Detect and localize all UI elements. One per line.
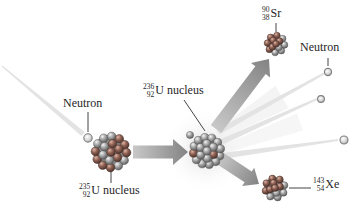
u235-label-text: U nucleus [91,184,139,197]
xe143-label: 143 54 Xe [313,177,339,193]
u236-label: 236 92 U nucleus [143,83,204,99]
diagram-graphics [0,0,357,209]
u235-isotope-numbers: 235 92 [79,183,90,199]
fission-diagram: Neutron Neutron 235 92 U nucleus 236 92 … [0,0,357,209]
neutron-label-left: Neutron [63,97,102,110]
u236-isotope-numbers: 236 92 [143,83,154,99]
u235-nucleus [91,132,131,172]
xe143-nucleus [262,175,288,201]
xe143-label-text: Xe [325,178,339,191]
sr90-isotope-numbers: 90 38 [262,6,270,22]
u236-label-text: U nucleus [155,84,203,97]
sr90-label: 90 38 Sr [262,6,281,22]
neutron-label-right-text: Neutron [300,41,339,54]
sr90-atomic-number: 38 [262,14,270,22]
neutron-label-left-text: Neutron [63,97,102,110]
xe143-isotope-numbers: 143 54 [313,177,324,193]
u235-label: 235 92 U nucleus [79,183,140,199]
sr90-label-text: Sr [271,7,282,20]
neutron-label-right: Neutron [300,41,339,54]
sr90-nucleus [264,32,288,56]
u235-atomic-number: 92 [83,191,91,199]
u236-atomic-number: 92 [147,91,155,99]
xe143-atomic-number: 54 [317,185,325,193]
